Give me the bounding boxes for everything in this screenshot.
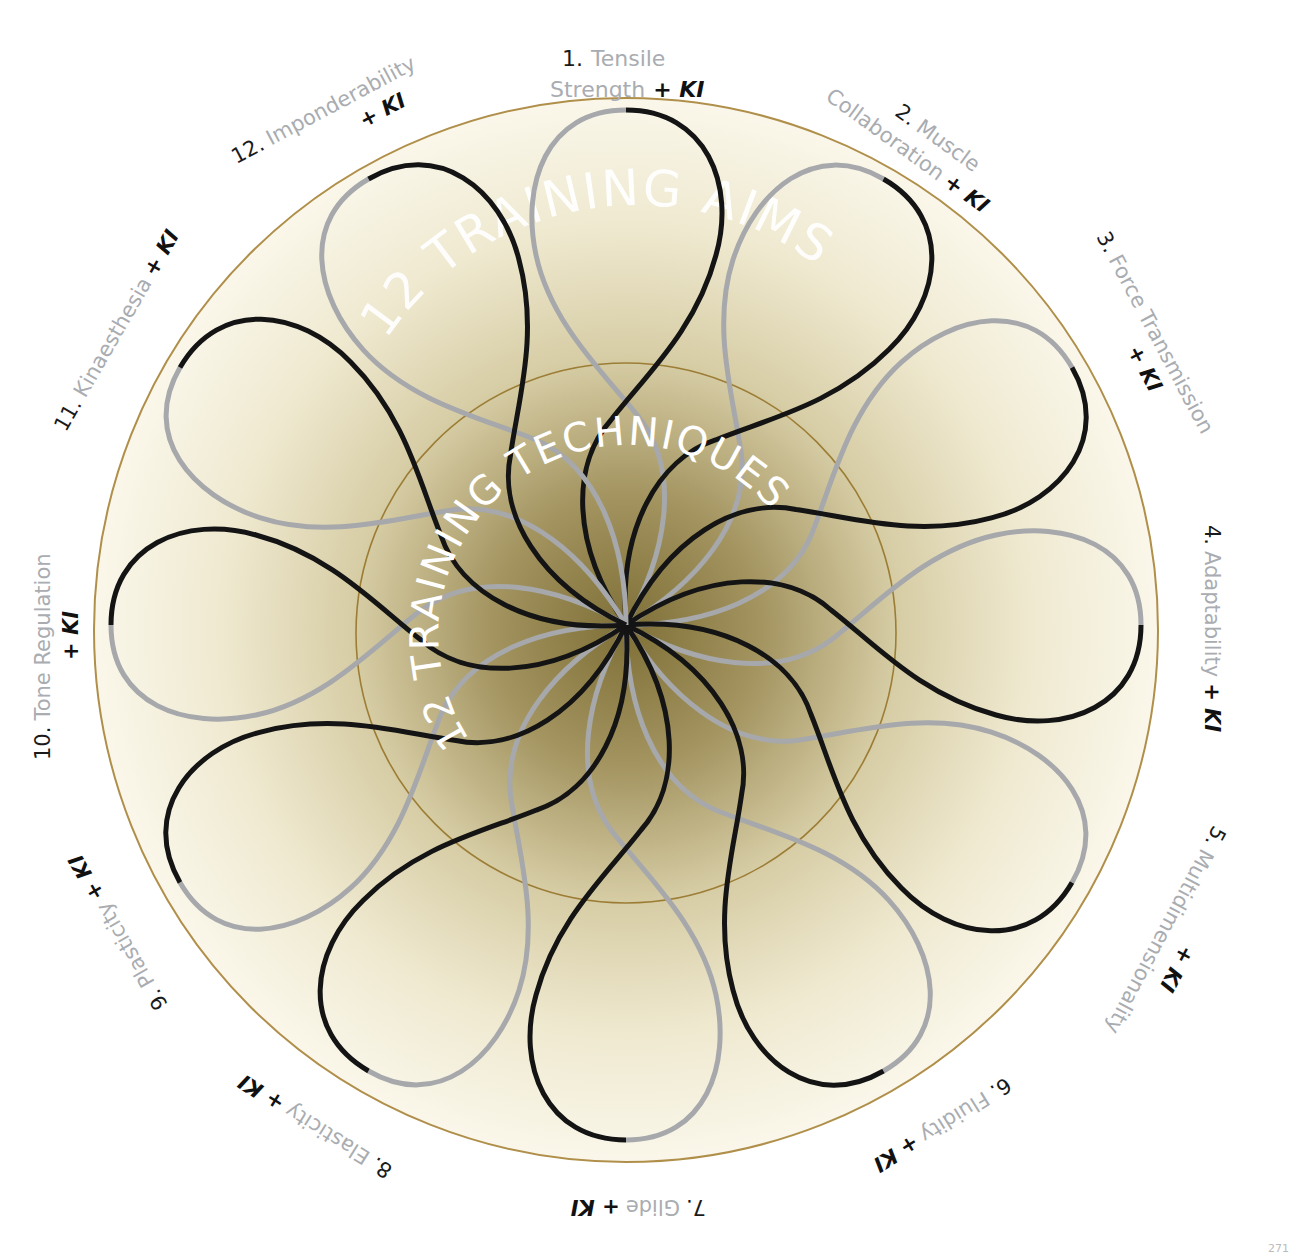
svg-text:10.Tone Regulation: 10.Tone Regulation [31, 553, 55, 760]
aim-label-4: 4.Adaptability+ KI [1200, 525, 1224, 732]
aim-label-7: 7.Glide+ KI [571, 1195, 706, 1219]
page-number: 271 [1268, 1242, 1289, 1255]
svg-text:4.Adaptability+ KI: 4.Adaptability+ KI [1200, 525, 1224, 732]
training-aims-diagram: 12 TRAINING AIMS 12 TRAINING TECHNIQUES … [0, 0, 1293, 1255]
svg-text:3.Force Transmission: 3.Force Transmission [1092, 228, 1219, 438]
svg-text:5.Multidimensionality: 5.Multidimensionality [1101, 822, 1231, 1038]
svg-text:7.Glide+ KI: 7.Glide+ KI [571, 1195, 706, 1219]
svg-text:Strength+ KI: Strength+ KI [550, 77, 705, 102]
aim-label-10: 10.Tone Regulation + KI [31, 553, 83, 760]
aim-label-5: 5.Multidimensionality + KI [1101, 822, 1256, 1051]
svg-text:1.Tensile: 1.Tensile [562, 46, 665, 71]
svg-text:+ KI: + KI [59, 611, 83, 660]
aim-label-1: 1.Tensile Strength+ KI [550, 46, 705, 102]
